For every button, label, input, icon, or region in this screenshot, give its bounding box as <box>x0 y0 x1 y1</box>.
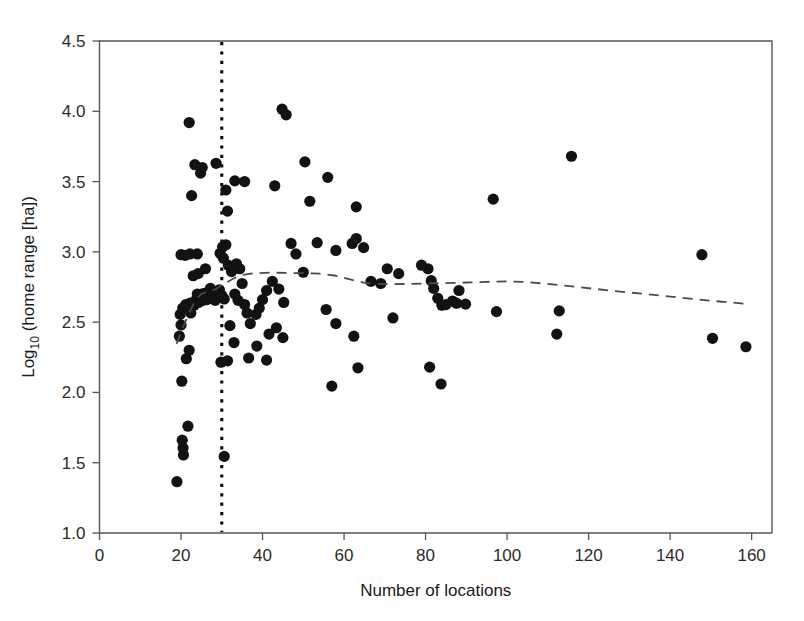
scatter-point <box>219 451 230 462</box>
y-tick-label: 2.0 <box>62 383 86 402</box>
scatter-point <box>453 285 464 296</box>
scatter-point <box>192 248 203 259</box>
y-axis-title-subscript: 10 <box>28 336 42 350</box>
scatter-point <box>424 362 435 373</box>
scatter-point <box>554 305 565 316</box>
x-tick-label: 40 <box>253 546 272 565</box>
y-tick-label: 1.0 <box>62 524 86 543</box>
scatter-point <box>278 297 289 308</box>
x-axis-title: Number of locations <box>360 581 511 600</box>
scatter-point <box>171 476 182 487</box>
scatter-point <box>551 328 562 339</box>
scatter-point <box>351 233 362 244</box>
scatter-point <box>740 341 751 352</box>
scatter-point <box>189 159 200 170</box>
y-tick-label: 3.0 <box>62 243 86 262</box>
scatter-point <box>321 304 332 315</box>
scatter-point <box>299 156 310 167</box>
scatter-point <box>351 201 362 212</box>
scatter-point <box>488 194 499 205</box>
scatter-point <box>220 239 231 250</box>
scatter-plot: 020406080100120140160 1.01.52.02.53.03.5… <box>0 0 804 621</box>
y-tick-label: 2.5 <box>62 313 86 332</box>
scatter-point <box>304 196 315 207</box>
scatter-point <box>387 312 398 323</box>
scatter-point <box>239 176 250 187</box>
x-tick-label: 20 <box>172 546 191 565</box>
y-tick-label: 4.0 <box>62 102 86 121</box>
scatter-point <box>330 245 341 256</box>
scatter-point <box>352 362 363 373</box>
x-tick-label: 120 <box>574 546 602 565</box>
scatter-point <box>219 293 230 304</box>
scatter-point <box>184 345 195 356</box>
scatter-point <box>222 205 233 216</box>
scatter-point <box>215 357 226 368</box>
scatter-point <box>382 263 393 274</box>
y-tick-label: 1.5 <box>62 454 86 473</box>
scatter-point <box>184 117 195 128</box>
x-tick-label: 60 <box>335 546 354 565</box>
x-tick-label: 140 <box>656 546 684 565</box>
scatter-point <box>229 175 240 186</box>
scatter-point <box>435 378 446 389</box>
scatter-point <box>228 337 239 348</box>
chart-figure: 020406080100120140160 1.01.52.02.53.03.5… <box>0 0 804 621</box>
scatter-point <box>269 180 280 191</box>
scatter-point <box>186 190 197 201</box>
scatter-point <box>176 376 187 387</box>
scatter-point <box>330 318 341 329</box>
scatter-point <box>263 328 274 339</box>
scatter-point <box>290 248 301 259</box>
scatter-point <box>491 306 502 317</box>
scatter-point <box>696 249 707 260</box>
scatter-point <box>566 151 577 162</box>
scatter-point <box>285 238 296 249</box>
scatter-point <box>422 263 433 274</box>
scatter-point <box>277 332 288 343</box>
scatter-point <box>220 184 231 195</box>
scatter-point <box>273 284 284 295</box>
scatter-point <box>251 340 262 351</box>
scatter-point <box>393 268 404 279</box>
y-axis-title-rest: (home range [ha]) <box>19 196 38 336</box>
scatter-point <box>182 421 193 432</box>
y-axis-title-log: Log <box>19 349 38 377</box>
scatter-point <box>365 276 376 287</box>
x-tick-label: 160 <box>737 546 765 565</box>
scatter-point <box>177 435 188 446</box>
scatter-point <box>234 263 245 274</box>
x-tick-label: 100 <box>493 546 521 565</box>
scatter-point <box>210 158 221 169</box>
scatter-point <box>358 242 369 253</box>
scatter-point <box>460 299 471 310</box>
scatter-point <box>243 352 254 363</box>
plot-background <box>0 0 804 621</box>
scatter-point <box>261 354 272 365</box>
y-tick-label: 3.5 <box>62 173 86 192</box>
scatter-point <box>281 109 292 120</box>
scatter-point <box>326 381 337 392</box>
scatter-point <box>179 250 190 261</box>
scatter-point <box>322 172 333 183</box>
scatter-point <box>348 331 359 342</box>
scatter-point <box>224 320 235 331</box>
scatter-point <box>298 267 309 278</box>
scatter-point <box>237 278 248 289</box>
scatter-point <box>312 237 323 248</box>
y-tick-label: 4.5 <box>62 32 86 51</box>
x-tick-label: 80 <box>416 546 435 565</box>
x-tick-label: 0 <box>95 546 104 565</box>
scatter-point <box>428 283 439 294</box>
scatter-point <box>200 263 211 274</box>
scatter-point <box>178 449 189 460</box>
scatter-point <box>707 333 718 344</box>
